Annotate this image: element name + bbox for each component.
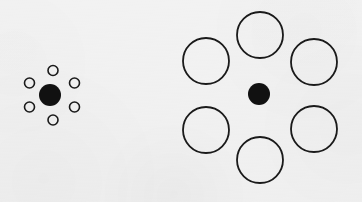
ebbinghaus-illusion-canvas — [0, 0, 362, 202]
target-disc-left — [39, 84, 61, 106]
target-disc-right — [248, 83, 270, 105]
illusion-figure — [0, 0, 362, 202]
